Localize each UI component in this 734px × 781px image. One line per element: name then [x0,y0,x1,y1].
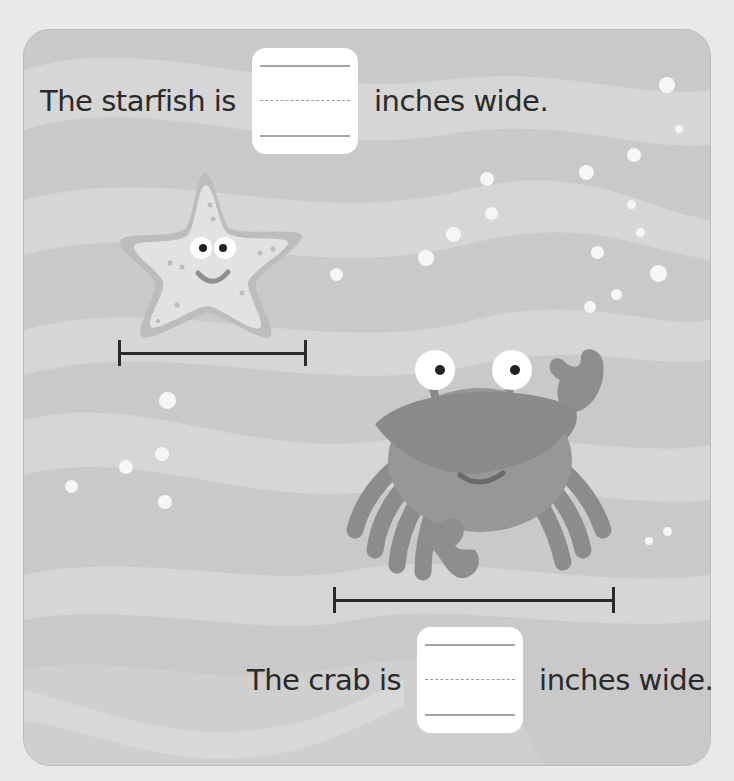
starfish-answer-box[interactable] [252,48,358,154]
crab-question: The crab is inches wide. [247,627,713,733]
crab-answer-box[interactable] [417,627,523,733]
bubble [627,148,641,162]
bubble [591,246,604,259]
bubble [675,125,683,133]
bubble [663,527,672,536]
ruler-bar [118,352,307,355]
bubble [627,200,636,209]
handwriting-baseline [425,714,515,716]
starfish-question-prefix: The starfish is [40,84,236,118]
bubble [330,268,343,281]
starfish-icon [110,165,310,345]
bubble [159,392,176,409]
ruler-end-right [304,340,307,366]
crab-question-suffix: inches wide. [539,663,713,697]
handwriting-top-line [425,644,515,646]
bubble [659,77,675,93]
bubble [650,265,667,282]
bubble [446,227,461,242]
handwriting-baseline [260,135,350,137]
handwriting-top-line [260,65,350,67]
handwriting-midline [425,679,515,680]
bubble [155,447,169,461]
crab-measuring-line [333,587,615,613]
ruler-bar [333,599,615,602]
ruler-end-right [612,587,615,613]
bubble [485,207,498,220]
bubble [418,250,434,266]
starfish-question-suffix: inches wide. [374,84,548,118]
bubble [65,480,78,493]
bubble [579,165,594,180]
crab-question-prefix: The crab is [247,663,401,697]
crab-icon [335,340,635,590]
bubble [584,301,596,313]
bubble [611,289,622,300]
starfish-measuring-line [118,340,307,366]
bubble [480,172,494,186]
bubble [645,537,653,545]
bubble [636,228,645,237]
starfish-question: The starfish is inches wide. [40,48,548,154]
bubble [158,495,172,509]
bubble [119,460,133,474]
handwriting-midline [260,100,350,101]
